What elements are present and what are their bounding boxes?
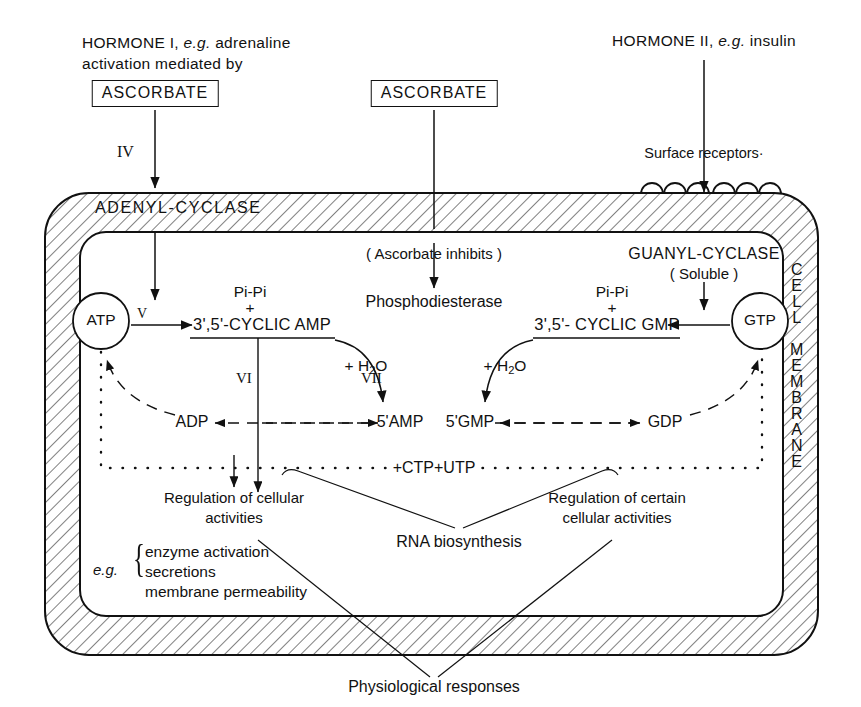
hormone-ii-label: HORMONE II, e.g. insulin xyxy=(612,32,796,50)
gtp-label: GTP xyxy=(744,311,776,329)
rna-biosynthesis-label: RNA biosynthesis xyxy=(396,533,521,551)
eg-brace: { xyxy=(133,536,145,582)
guanyl-cyclase-soluble-label: ( Soluble ) xyxy=(670,265,738,282)
atp-label: ATP xyxy=(87,311,116,329)
amp5-label: 5'AMP xyxy=(377,413,424,431)
adenyl-cyclase-label: ADENYL-CYCLASE xyxy=(95,199,261,217)
regulation-left-line2: activities xyxy=(205,509,263,526)
cm-letter-r: R xyxy=(791,406,803,422)
hormone-i-text-a: HORMONE I, xyxy=(82,34,179,51)
cyclic-amp-label: 3',5'-CYCLIC AMP xyxy=(193,315,331,334)
cm-letter-l2: L xyxy=(792,310,801,326)
physiological-responses-label: Physiological responses xyxy=(348,678,520,696)
cm-letter-a: A xyxy=(791,422,802,438)
eg-item-2: secretions xyxy=(145,563,216,581)
water-right-b: O xyxy=(514,357,526,374)
water-left-b: O xyxy=(375,357,387,374)
eg-label: e.g. xyxy=(93,561,118,578)
roman-numeral-v: V xyxy=(137,306,147,322)
cm-letter-e3: E xyxy=(791,454,802,470)
cell-membrane-label: C E L L M E M B R A N E xyxy=(790,262,804,470)
adp-label: ADP xyxy=(176,413,209,431)
gdp-label: GDP xyxy=(648,413,683,431)
water-right-label: + H2O xyxy=(484,357,527,377)
diagram-canvas: HORMONE I, e.g. adrenaline activation me… xyxy=(0,0,861,707)
regulation-right-line1: Regulation of certain xyxy=(548,489,686,506)
cm-letter-l1: L xyxy=(792,294,801,310)
gmp5-label: 5'GMP xyxy=(446,413,494,431)
cm-letter-e: E xyxy=(791,278,802,294)
regulation-right-line2: cellular activities xyxy=(562,509,671,526)
eg-item-1: enzyme activation xyxy=(145,543,269,561)
cyclic-gmp-label: 3',5'- CYCLIC GMP xyxy=(534,315,679,334)
cm-letter-n: N xyxy=(791,438,803,454)
water-right-a: + H xyxy=(484,357,509,374)
cm-letter-m1: M xyxy=(790,342,804,358)
hormone-i-text-c: adrenaline xyxy=(215,34,290,51)
regulation-left-line1: Regulation of cellular xyxy=(164,489,304,506)
roman-numeral-iv: IV xyxy=(117,143,134,161)
cm-letter-m2: M xyxy=(790,374,804,390)
hormone-i-eg: e.g. xyxy=(183,34,210,51)
ctp-utp-label: +CTP+UTP xyxy=(390,459,479,477)
hormone-i-label: HORMONE I, e.g. adrenaline xyxy=(82,34,291,52)
roman-numeral-vi: VI xyxy=(236,370,252,387)
cm-letter-c: C xyxy=(791,262,803,278)
hormone-ii-eg: e.g. xyxy=(718,32,745,49)
eg-item-3: membrane permeability xyxy=(145,583,307,601)
hormone-ii-text-c: insulin xyxy=(750,32,796,49)
hormone-i-sublabel: activation mediated by xyxy=(82,55,243,73)
cm-letter-b: B xyxy=(791,390,802,406)
water-left-a: + H xyxy=(345,357,370,374)
ascorbate-box-left[interactable]: ASCORBATE xyxy=(92,80,219,107)
guanyl-cyclase-label: GUANYL-CYCLASE xyxy=(628,245,779,263)
surface-receptors-label: Surface receptors· xyxy=(644,145,763,162)
ascorbate-inhibits-label: ( Ascorbate inhibits ) xyxy=(366,245,502,262)
hormone-ii-text-a: HORMONE II, xyxy=(612,32,713,49)
cm-letter-e2: E xyxy=(791,358,802,374)
water-left-label: + H2O xyxy=(345,357,388,377)
ascorbate-box-middle[interactable]: ASCORBATE xyxy=(371,80,498,107)
phosphodiesterase-label: Phosphodiesterase xyxy=(366,293,503,311)
